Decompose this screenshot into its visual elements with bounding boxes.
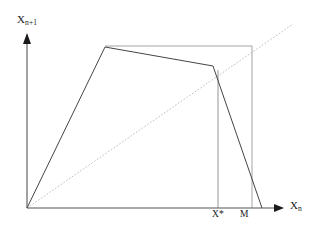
unimodal-map-curve <box>27 47 262 208</box>
x-axis-label-subscript: n <box>298 204 302 213</box>
y-axis-label: Xn+1 <box>17 14 37 26</box>
y-axis-arrowhead <box>23 33 31 44</box>
tick-label-x-star: X* <box>212 210 224 220</box>
tick-label-m: M <box>240 210 248 220</box>
tick-label-m-base: M <box>240 209 248 219</box>
x-axis-arrowhead <box>274 204 284 212</box>
y-axis-label-subscript: n+1 <box>25 18 37 27</box>
x-axis-label: Xn <box>290 200 302 212</box>
identity-diagonal-line <box>27 24 293 208</box>
tick-label-x-star-asterisk: * <box>219 209 224 219</box>
plot-svg <box>0 0 319 235</box>
x-axis-label-base: X <box>290 199 298 211</box>
figure-canvas: Xn+1 Xn X* M <box>0 0 319 235</box>
y-axis-label-base: X <box>17 13 25 25</box>
tick-label-x-star-base: X <box>212 209 219 219</box>
